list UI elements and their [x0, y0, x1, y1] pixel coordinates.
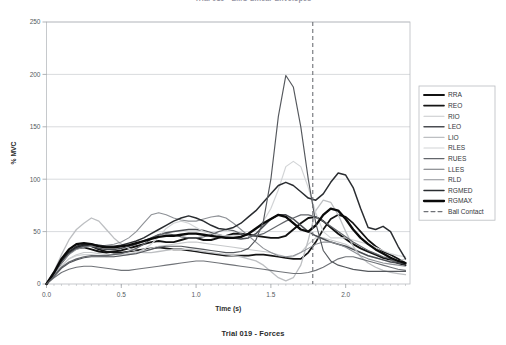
x-tick-label: 0.0	[42, 291, 51, 298]
chart-canvas: 0501001502002500.00.51.01.52.0Time (s)% …	[0, 0, 506, 345]
y-tick-label: 250	[30, 18, 41, 25]
legend-label-rgmed: RGMED	[448, 187, 473, 194]
legend-label-rld: RLD	[448, 176, 461, 183]
y-tick-label: 100	[30, 176, 41, 183]
x-axis-title: Time (s)	[215, 305, 241, 313]
legend-label-rues: RUES	[448, 155, 467, 162]
chart-figure: Trial 019 - EMG Linear Envelopes 0501001…	[0, 0, 506, 345]
series-line-rio-peak	[47, 75, 406, 284]
y-tick-label: 0	[37, 280, 41, 287]
y-axis-title: % MVC	[10, 141, 17, 164]
legend-label-lio: LIO	[448, 134, 459, 141]
y-tick-label: 200	[30, 71, 41, 78]
x-tick-label: 1.5	[266, 291, 275, 298]
legend-label-rra: RRA	[448, 91, 463, 98]
series-line-lio	[47, 200, 406, 284]
figure-bottom-caption: Trial 019 - Forces	[0, 329, 506, 338]
y-tick-label: 150	[30, 123, 41, 130]
legend-label-rgmax: RGMAX	[448, 197, 473, 204]
series-line-lles	[47, 257, 406, 284]
legend-label-reo: REO	[448, 102, 462, 109]
x-tick-label: 1.0	[192, 291, 201, 298]
legend-label-ball-contact: Ball Contact	[448, 208, 484, 215]
legend-label-lles: LLES	[448, 166, 465, 173]
legend-label-rio: RIO	[448, 113, 460, 120]
legend-label-leo: LEO	[448, 123, 461, 130]
legend-label-rles: RLES	[448, 144, 466, 151]
x-tick-label: 0.5	[117, 291, 126, 298]
y-tick-label: 50	[33, 228, 41, 235]
x-tick-label: 2.0	[341, 291, 350, 298]
